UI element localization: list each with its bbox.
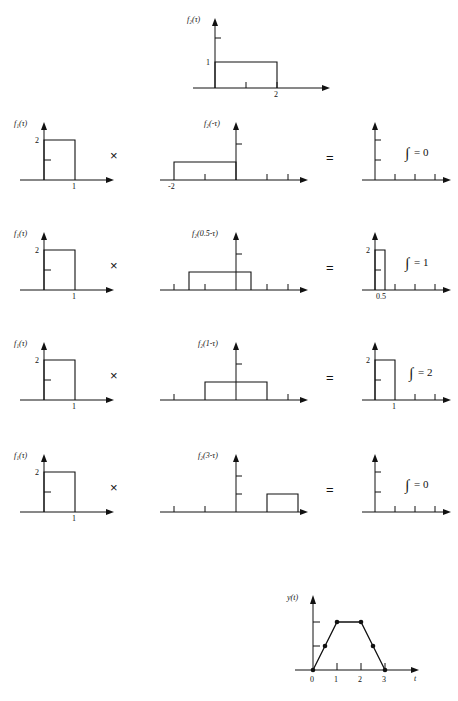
row-4-equals-operator: =	[325, 482, 341, 498]
row-4-left-ytick-label: 2	[35, 468, 39, 477]
y-axis-arrow	[233, 342, 239, 350]
y-axis-arrow	[233, 232, 239, 240]
chart-f2-tau-ytick-label: 1	[206, 58, 210, 67]
y-axis-arrow	[41, 342, 47, 350]
x-axis-arrow	[106, 177, 114, 183]
multiply-symbol: ×	[110, 480, 118, 495]
multiply-symbol: ×	[110, 368, 118, 383]
row-1-middle-chart-f2: f₂(-τ) -2	[148, 118, 318, 190]
row-2-multiply-operator: ×	[108, 258, 124, 274]
row-2-middle-chart-f2: f₂(0.5-τ)	[148, 228, 318, 300]
data-point	[335, 620, 340, 625]
row-3-left-xtick-label: 1	[72, 402, 76, 411]
row-3-multiply-operator: ×	[108, 368, 124, 384]
row-2-middle-ylabel: f₂(0.5-τ)	[192, 229, 218, 238]
row-4-right-chart-result: ∫ = 0	[357, 450, 457, 522]
integral-icon: ∫	[404, 145, 411, 162]
x-axis-arrow	[300, 509, 308, 515]
x-axis-arrow	[106, 397, 114, 403]
row-2-equals-operator: =	[325, 260, 341, 276]
chart-f2-tau-ylabel: f₂(τ)	[187, 15, 201, 24]
chart-f2-tau-xtick-label: 2	[274, 90, 278, 99]
result-ylabel: y(t)	[286, 593, 298, 602]
y-axis-arrow	[41, 122, 47, 130]
y-axis-arrow	[233, 454, 239, 462]
integral-icon: ∫	[408, 365, 415, 382]
data-point	[311, 668, 316, 673]
row-1-equals-operator: =	[325, 150, 341, 166]
pulse-shape	[267, 494, 298, 512]
y-axis-arrow	[372, 122, 378, 130]
row-2-left-ylabel: f₁(τ)	[14, 229, 28, 238]
y-axis-arrow	[233, 122, 239, 130]
row-2-right-xtick-label: 0.5	[376, 292, 386, 301]
row-3-middle-chart-f2: f₂(1-τ)	[148, 338, 318, 410]
row-4-middle-chart-f2: f₂(3-τ)	[148, 450, 318, 522]
y-axis-arrow	[212, 18, 218, 26]
x-axis-arrow	[106, 509, 114, 515]
y-axis-arrow	[41, 232, 47, 240]
row-4-left-ylabel: f₁(τ)	[14, 451, 28, 460]
pulse-shape	[189, 272, 251, 290]
chart-f2-tau: f₂(τ) 1 2	[185, 10, 345, 98]
x-axis-arrow	[443, 287, 451, 293]
result-xtick-label-1: 1	[334, 675, 338, 684]
equals-symbol: =	[326, 260, 334, 275]
row-3-left-ylabel: f₁(τ)	[14, 339, 28, 348]
row-3-left-ytick-label: 2	[35, 356, 39, 365]
multiply-symbol: ×	[110, 258, 118, 273]
x-axis-arrow	[300, 397, 308, 403]
x-axis-arrow	[443, 397, 451, 403]
x-axis-arrow	[322, 85, 330, 91]
row-1-integral-value: = 0	[414, 146, 429, 158]
row-2-right-ytick-label: 2	[366, 246, 370, 255]
integral-icon: ∫	[404, 477, 411, 494]
row-3-integral-value: = 2	[418, 366, 432, 378]
row-4-middle-ylabel: f₂(3-τ)	[198, 451, 218, 460]
row-3-right-chart-result: 2 1 ∫ = 2	[357, 338, 457, 410]
result-xtick-label-2: 2	[358, 675, 362, 684]
integral-icon: ∫	[404, 255, 411, 272]
x-axis-arrow	[443, 177, 451, 183]
equals-symbol: =	[326, 150, 334, 165]
row-4-integral-value: = 0	[414, 478, 429, 490]
data-point	[359, 620, 364, 625]
x-axis-arrow	[411, 667, 419, 673]
y-axis-arrow	[372, 342, 378, 350]
row-1-multiply-operator: ×	[108, 148, 124, 164]
row-2-left-xtick-label: 1	[72, 292, 76, 301]
row-1-middle-xtick-label: -2	[168, 182, 175, 191]
row-2-right-chart-result: 2 0.5 ∫ = 1	[357, 228, 457, 300]
y-axis-arrow	[41, 454, 47, 462]
x-axis-arrow	[443, 509, 451, 515]
row-3-right-xtick-label: 1	[392, 402, 396, 411]
y-axis-arrow	[372, 454, 378, 462]
multiply-symbol: ×	[110, 148, 118, 163]
row-3-middle-ylabel: f₂(1-τ)	[198, 339, 218, 348]
result-xlabel: t	[414, 674, 417, 683]
y-axis-arrow	[310, 595, 316, 604]
data-point	[371, 644, 376, 649]
row-2-left-ytick-label: 2	[35, 246, 39, 255]
data-point	[323, 644, 328, 649]
y-axis-arrow	[372, 232, 378, 240]
row-1-left-ylabel: f₁(τ)	[14, 119, 28, 128]
row-1-left-ytick-label: 2	[35, 136, 39, 145]
row-3-right-ytick-label: 2	[366, 356, 370, 365]
x-axis-arrow	[106, 287, 114, 293]
result-xtick-label-3: 3	[382, 675, 386, 684]
equals-symbol: =	[326, 370, 334, 385]
row-2-integral-value: = 1	[414, 256, 428, 268]
row-1-middle-ylabel: f₂(-τ)	[204, 119, 220, 128]
row-4-left-xtick-label: 1	[72, 514, 76, 523]
equals-symbol: =	[326, 482, 334, 497]
row-4-multiply-operator: ×	[108, 480, 124, 496]
data-point	[383, 668, 388, 673]
row-1-right-chart-result: ∫ = 0	[357, 118, 457, 190]
chart-convolution-result: y(t) t 0 1 2 3	[283, 580, 453, 695]
row-1-left-xtick-label: 1	[72, 182, 76, 191]
row-3-equals-operator: =	[325, 370, 341, 386]
result-xtick-label-0: 0	[310, 675, 314, 684]
x-axis-arrow	[300, 177, 308, 183]
x-axis-arrow	[300, 287, 308, 293]
